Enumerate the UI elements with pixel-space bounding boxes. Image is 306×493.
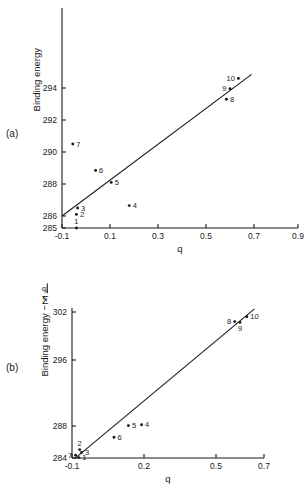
data-point-label: 4 bbox=[133, 201, 137, 210]
data-point bbox=[74, 454, 77, 457]
x-tick-label: 0.7 bbox=[258, 461, 270, 471]
x-tick-label: 0.2 bbox=[138, 461, 150, 471]
data-point bbox=[113, 436, 116, 439]
y-tick-label: 284 bbox=[53, 453, 67, 463]
data-point bbox=[76, 207, 79, 210]
data-point bbox=[80, 451, 83, 454]
x-tick-label: 0.3 bbox=[152, 231, 164, 241]
data-point bbox=[237, 77, 240, 80]
scatter-plot-b: -0.10.20.50.728428829630212345678910q bbox=[0, 250, 306, 493]
data-point bbox=[127, 424, 130, 427]
data-point bbox=[94, 169, 97, 172]
x-tick-label: 0.1 bbox=[104, 231, 116, 241]
data-point-label: 6 bbox=[99, 166, 103, 175]
data-point bbox=[128, 204, 131, 207]
y-tick-label: 294 bbox=[43, 83, 57, 93]
x-tick-label: 0.5 bbox=[200, 231, 212, 241]
data-point-label: 9 bbox=[222, 84, 226, 93]
y-tick-label: 296 bbox=[53, 355, 67, 365]
data-point-label: 10 bbox=[250, 312, 258, 321]
data-point bbox=[75, 213, 78, 216]
data-point bbox=[225, 98, 228, 101]
data-point-label: 8 bbox=[227, 317, 231, 326]
data-point-label: 3 bbox=[81, 204, 85, 213]
y-tick-label: 286 bbox=[43, 211, 57, 221]
data-point-label: 7 bbox=[76, 140, 80, 149]
data-point-label: 8 bbox=[230, 95, 234, 104]
figure-binding-energy: (a) Binding energy -0.10.10.30.50.70.928… bbox=[0, 0, 306, 493]
scatter-plot-a: -0.10.10.30.50.70.9285286288290292294123… bbox=[0, 0, 306, 250]
plot-area-a: -0.10.10.30.50.70.9285286288290292294123… bbox=[0, 0, 306, 250]
data-point-label: 5 bbox=[132, 421, 136, 430]
y-tick-label: 302 bbox=[53, 307, 67, 317]
data-point bbox=[78, 448, 81, 451]
x-tick-label: 0.9 bbox=[292, 231, 304, 241]
regression-line bbox=[74, 309, 254, 459]
chart-panel-a: (a) Binding energy -0.10.10.30.50.70.928… bbox=[0, 0, 306, 250]
data-point-label: 6 bbox=[118, 433, 122, 442]
y-tick-label: 292 bbox=[43, 115, 57, 125]
y-tick-label: 288 bbox=[43, 179, 57, 189]
data-point-label: 7 bbox=[68, 451, 72, 460]
data-point-label: 2 bbox=[78, 439, 82, 448]
x-tick-label: 0.5 bbox=[210, 461, 222, 471]
plot-area-b: -0.10.20.50.728428829630212345678910q bbox=[0, 250, 306, 493]
x-tick-label: 0.7 bbox=[248, 231, 260, 241]
data-point-label: 3 bbox=[85, 448, 89, 457]
data-point bbox=[77, 456, 80, 459]
data-point-label: 1 bbox=[74, 217, 78, 226]
x-axis-title: q bbox=[165, 473, 170, 484]
chart-panel-b: (b) Binding energy − Σ qⱼ rᵢⱼ -0.10.20.5… bbox=[0, 250, 306, 493]
data-point bbox=[75, 227, 78, 230]
y-tick-label: 285 bbox=[43, 223, 57, 233]
data-point-label: 10 bbox=[227, 74, 235, 83]
data-point-label: 4 bbox=[145, 420, 149, 429]
data-point-label: 9 bbox=[238, 324, 242, 333]
data-point bbox=[140, 423, 143, 426]
y-tick-label: 288 bbox=[53, 421, 67, 431]
data-point bbox=[245, 315, 248, 318]
y-tick-label: 290 bbox=[43, 147, 57, 157]
data-point-label: 5 bbox=[115, 178, 119, 187]
data-point bbox=[229, 87, 232, 90]
regression-line bbox=[62, 74, 252, 216]
data-point bbox=[110, 181, 113, 184]
data-point bbox=[233, 320, 236, 323]
data-point bbox=[71, 143, 74, 146]
